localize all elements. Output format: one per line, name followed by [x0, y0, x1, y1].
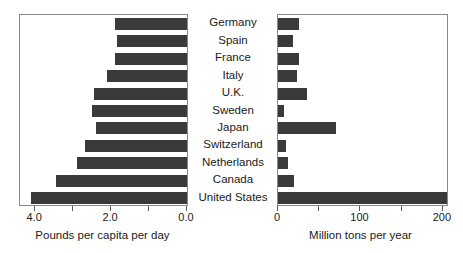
bar: [278, 157, 288, 169]
left-bar-series: [20, 15, 187, 205]
category-label: Canada: [190, 173, 276, 186]
bar: [115, 53, 187, 65]
axis-tick-label: 2.0: [102, 211, 117, 224]
category-label: Netherlands: [190, 156, 276, 169]
right-axis-title: Million tons per year: [258, 228, 463, 242]
left-axis-title: Pounds per capita per day: [0, 228, 205, 242]
bar: [278, 122, 336, 134]
category-label: Japan: [190, 121, 276, 134]
bar: [107, 70, 187, 82]
right-plot-area: [277, 14, 448, 206]
category-label-column: GermanySpainFranceItalyU.K.SwedenJapanSw…: [190, 14, 276, 206]
axis-tick: [401, 206, 402, 211]
right-x-axis: 0100200: [277, 206, 448, 228]
bar: [56, 175, 187, 187]
bar: [278, 35, 293, 47]
axis-tick-label: 100: [350, 211, 368, 224]
axis-tick-label: 4.0: [27, 211, 42, 224]
bar: [117, 35, 187, 47]
left-plot-area: [19, 14, 188, 206]
category-label: Switzerland: [190, 138, 276, 151]
category-label: Italy: [190, 69, 276, 82]
bar: [278, 192, 447, 204]
bar: [278, 175, 294, 187]
bar: [85, 140, 187, 152]
right-bar-series: [278, 15, 447, 205]
axis-tick: [72, 206, 73, 211]
axis-tick: [148, 206, 149, 211]
category-label: Sweden: [190, 104, 276, 117]
axis-tick: [318, 206, 319, 211]
bar: [77, 157, 187, 169]
bar: [278, 70, 297, 82]
bar: [278, 88, 307, 100]
dual-bar-chart-figure: 4.02.00.0 Pounds per capita per day Germ…: [0, 0, 463, 253]
axis-tick-label: 0.0: [178, 211, 193, 224]
category-label: France: [190, 51, 276, 64]
bar: [278, 105, 284, 117]
bar: [92, 105, 187, 117]
bar: [94, 88, 187, 100]
bar: [278, 53, 299, 65]
category-label: United States: [190, 191, 276, 204]
bar: [278, 140, 286, 152]
left-x-axis: 4.02.00.0: [19, 206, 188, 228]
bar: [115, 18, 187, 30]
axis-tick-label: 200: [433, 211, 451, 224]
bar: [31, 192, 187, 204]
bar: [96, 122, 187, 134]
category-label: Germany: [190, 16, 276, 29]
category-label: Spain: [190, 34, 276, 47]
category-label: U.K.: [190, 86, 276, 99]
bar: [278, 18, 299, 30]
axis-tick-label: 0: [274, 211, 280, 224]
